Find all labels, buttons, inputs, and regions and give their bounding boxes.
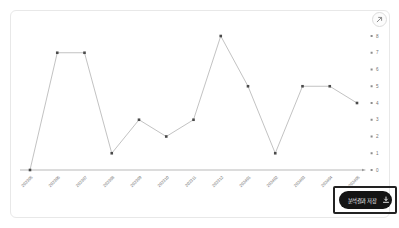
- data-point-marker: [192, 118, 195, 121]
- y-tick: [371, 169, 373, 171]
- data-point-marker: [165, 135, 168, 138]
- x-tick-label: 202312: [211, 174, 225, 188]
- series-line: [30, 36, 357, 170]
- y-tick: [371, 152, 373, 154]
- highlight-box: 분석결과 저장: [333, 186, 397, 214]
- data-point-marker: [274, 152, 277, 155]
- x-tick-label: 202311: [184, 174, 198, 188]
- y-tick: [371, 119, 373, 121]
- data-point-marker: [138, 118, 141, 121]
- save-results-button[interactable]: 분석결과 저장: [339, 191, 392, 209]
- y-tick: [371, 69, 373, 71]
- y-tick: [371, 136, 373, 138]
- x-tick-label: 202309: [129, 174, 143, 188]
- x-tick-label: 202401: [238, 174, 252, 188]
- expand-arrow-icon: [375, 15, 384, 24]
- x-tick-label: 202404: [320, 174, 334, 188]
- download-icon: [386, 196, 390, 204]
- x-tick-label: 202305: [20, 174, 34, 188]
- y-tick: [371, 52, 373, 54]
- data-point-marker: [56, 51, 59, 54]
- x-tick-label: 202307: [75, 174, 89, 188]
- data-point-marker: [110, 152, 113, 155]
- y-tick-label: 8: [376, 34, 379, 39]
- y-tick: [371, 102, 373, 104]
- y-tick: [371, 35, 373, 37]
- data-point-marker: [247, 85, 250, 88]
- x-tick-label: 202310: [157, 174, 171, 188]
- x-tick-label: 202402: [266, 174, 280, 188]
- y-tick-label: 3: [376, 117, 379, 122]
- data-point-marker: [83, 51, 86, 54]
- data-point-marker: [356, 102, 359, 105]
- y-tick-label: 2: [376, 134, 379, 139]
- data-point-marker: [29, 169, 32, 172]
- y-tick: [371, 85, 373, 87]
- save-results-label: 분석결과 저장: [347, 196, 376, 203]
- y-tick-label: 1: [376, 151, 379, 156]
- page: 0123456782023052023062023072023082023092…: [0, 0, 399, 228]
- x-tick-label: 202403: [293, 174, 307, 188]
- x-axis-arrow: [362, 169, 366, 172]
- x-tick-label: 202308: [102, 174, 116, 188]
- x-tick-label: 202306: [48, 174, 62, 188]
- y-tick-label: 6: [376, 67, 379, 72]
- y-tick-label: 4: [376, 101, 379, 106]
- y-tick-label: 7: [376, 50, 379, 55]
- data-point-marker: [328, 85, 331, 88]
- y-tick-label: 5: [376, 84, 379, 89]
- data-point-marker: [219, 35, 222, 38]
- y-tick-label: 0: [376, 168, 379, 173]
- expand-button[interactable]: [372, 12, 387, 27]
- data-point-marker: [301, 85, 304, 88]
